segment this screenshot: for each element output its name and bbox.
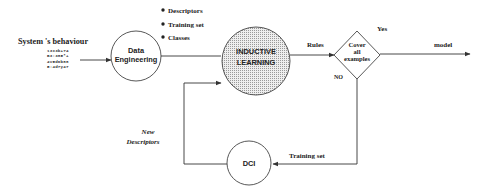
data-row: 13x3b+74 [47,49,69,53]
data-row: B3:385*+ [47,54,69,58]
decision-label-line1: Cover [348,41,365,48]
new-descriptors-label-line1: New [141,128,155,136]
inductive-learning-diagram: System 's behaviour 13x3b+74 B3:385*+ 4v… [0,0,491,194]
data-engineering-label-line1: Data [128,46,145,55]
bullet-icon [161,22,164,25]
training-set-label: Training set [289,152,326,160]
inductive-learning-label-line2: LEARNING [237,58,276,67]
bullet-icon [161,8,164,11]
inductive-learning-label-line1: INDUCTIVE [236,47,276,56]
rules-label: Rules [307,41,324,49]
feedback-arrow [184,83,227,164]
cover-all-examples-decision: Cover all examples [334,31,380,79]
system-behaviour-label: System 's behaviour [18,37,88,46]
yes-label: Yes [377,25,387,33]
data-engineering-node: Data Engineering [111,31,161,81]
dci-node: DCI [227,141,271,185]
data-row: 5:4d7y47 [47,65,69,69]
decision-label-line3: examples [344,55,370,62]
model-label: model [434,41,452,49]
bullet-classes: Classes [168,34,190,42]
bullet-descriptors: Descriptors [168,7,203,15]
data-engineering-label-line2: Engineering [115,55,158,64]
new-descriptors-label-line2: Descriptors [125,138,159,146]
no-label: NO [334,74,343,80]
bullet-training-set: Training set [168,21,205,29]
dci-label: DCI [243,159,256,168]
bullet-list: Descriptors Training set Classes [161,7,204,42]
decision-label-line2: all [354,48,361,55]
system-behaviour-input: System 's behaviour 13x3b+74 B3:385*+ 4v… [18,37,88,69]
inductive-learning-node: INDUCTIVE LEARNING [222,27,290,95]
data-row: 4v5d6b88 [47,60,69,64]
bullet-icon [161,35,164,38]
